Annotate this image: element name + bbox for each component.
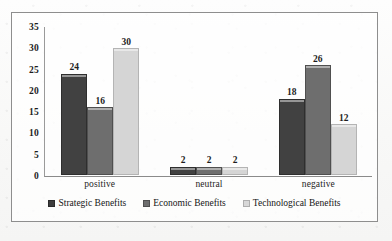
y-axis-tick-5: 5 (34, 150, 39, 160)
y-axis-tick-15: 15 (29, 107, 39, 117)
bar-technological-negative[interactable]: 12 (331, 124, 357, 175)
bar-value-label: 16 (96, 97, 106, 107)
x-axis-labels: positive neutral negative (45, 179, 373, 189)
x-axis-label-positive: positive (45, 179, 154, 189)
bar-wrap: 2 (170, 27, 196, 175)
scanned-page-background: 35 30 25 20 15 10 5 0 24 16 (0, 0, 392, 241)
bar-economic-negative[interactable]: 26 (305, 65, 331, 175)
legend-label: Technological Benefits (253, 198, 341, 208)
y-axis-tick-20: 20 (29, 86, 39, 96)
x-axis-label-neutral: neutral (154, 179, 263, 189)
legend-swatch-icon (48, 200, 55, 207)
bar-strategic-neutral[interactable]: 2 (170, 167, 196, 175)
bar-value-label: 2 (181, 156, 186, 166)
bar-groups: 24 16 30 (46, 27, 372, 175)
y-axis-tick-30: 30 (29, 43, 39, 53)
bar-economic-positive[interactable]: 16 (87, 107, 113, 175)
bar-wrap: 16 (87, 27, 113, 175)
bar-wrap: 2 (196, 27, 222, 175)
bar-economic-neutral[interactable]: 2 (196, 167, 222, 175)
bar-group-positive: 24 16 30 (46, 27, 155, 175)
legend-label: Economic Benefits (153, 198, 226, 208)
bar-wrap: 12 (331, 27, 357, 175)
y-axis-tick-10: 10 (29, 128, 39, 138)
bar-wrap: 24 (61, 27, 87, 175)
bar-wrap: 18 (279, 27, 305, 175)
legend-item-technological-benefits[interactable]: Technological Benefits (243, 198, 341, 208)
bar-technological-positive[interactable]: 30 (113, 48, 139, 175)
y-axis-tick-35: 35 (29, 22, 39, 32)
bar-wrap: 30 (113, 27, 139, 175)
bar-value-label: 26 (313, 55, 323, 65)
bar-value-label: 12 (339, 114, 349, 124)
bar-wrap: 2 (222, 27, 248, 175)
bar-technological-neutral[interactable]: 2 (222, 167, 248, 175)
bar-value-label: 30 (122, 38, 132, 48)
bar-group-neutral: 2 2 2 (155, 27, 264, 175)
bar-value-label: 2 (233, 156, 238, 166)
chart-legend: Strategic Benefits Economic Benefits Tec… (12, 198, 377, 208)
bar-wrap: 26 (305, 27, 331, 175)
bar-strategic-negative[interactable]: 18 (279, 99, 305, 175)
legend-swatch-icon (243, 200, 250, 207)
bar-group-negative: 18 26 12 (263, 27, 372, 175)
x-axis-label-negative: negative (264, 179, 373, 189)
legend-item-economic-benefits[interactable]: Economic Benefits (143, 198, 226, 208)
chart-frame: 35 30 25 20 15 10 5 0 24 16 (11, 12, 378, 222)
legend-swatch-icon (143, 200, 150, 207)
bar-value-label: 2 (207, 156, 212, 166)
legend-item-strategic-benefits[interactable]: Strategic Benefits (48, 198, 126, 208)
bar-value-label: 18 (287, 88, 297, 98)
plot-area: 35 30 25 20 15 10 5 0 24 16 (44, 27, 372, 177)
y-axis-tick-0: 0 (34, 171, 39, 181)
legend-label: Strategic Benefits (58, 198, 126, 208)
y-axis-tick-25: 25 (29, 65, 39, 75)
bar-strategic-positive[interactable]: 24 (61, 74, 87, 175)
bar-value-label: 24 (70, 63, 80, 73)
